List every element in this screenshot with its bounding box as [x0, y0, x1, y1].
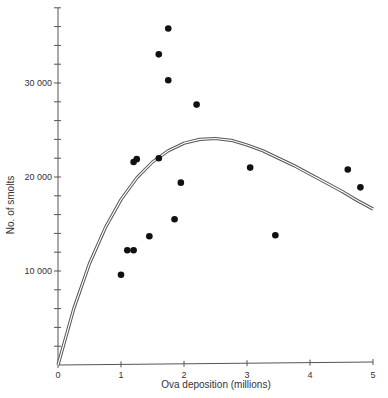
data-point — [171, 216, 178, 223]
data-point — [156, 155, 163, 162]
data-point — [193, 101, 200, 108]
data-point — [156, 51, 163, 58]
data-points — [118, 25, 364, 278]
x-axis-label: Ova deposition (millions) — [161, 379, 271, 390]
y-tick-label: 30 000 — [24, 78, 52, 88]
data-point — [247, 164, 254, 171]
y-tick-label: 10 000 — [24, 266, 52, 276]
y-axis-label: No. of smolts — [5, 176, 16, 234]
x-tick-label: 0 — [55, 370, 60, 380]
y-tick-label: 20 000 — [24, 172, 52, 182]
x-tick-label: 1 — [118, 370, 123, 380]
data-point — [178, 179, 185, 186]
data-point — [345, 166, 352, 173]
data-point — [133, 156, 140, 163]
data-point — [130, 247, 137, 254]
x-tick-label: 4 — [307, 370, 312, 380]
x-tick-label: 5 — [370, 370, 375, 380]
data-point — [124, 247, 131, 254]
curve-inner — [58, 139, 373, 366]
fitted-curve — [58, 139, 373, 366]
x-axis-line — [58, 362, 373, 365]
data-point — [165, 25, 172, 32]
data-point — [272, 232, 279, 239]
data-point — [118, 271, 125, 278]
data-point — [357, 184, 364, 191]
axes: 10 00020 00030 000012345 — [24, 8, 375, 380]
data-point — [165, 77, 172, 84]
curve-outer — [58, 139, 373, 366]
stock-recruitment-chart: 10 00020 00030 000012345 Ova deposition … — [0, 0, 388, 398]
data-point — [146, 233, 153, 240]
